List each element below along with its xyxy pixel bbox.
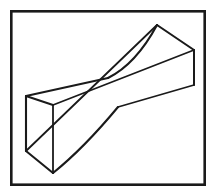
figure-container: Twisted prismatic solid line drawing	[0, 0, 216, 196]
twisted-solid-drawing	[0, 0, 216, 196]
